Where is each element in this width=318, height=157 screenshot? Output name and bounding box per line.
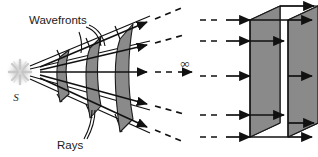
point-source-glow — [5, 57, 35, 87]
source-label: S — [13, 91, 19, 103]
rays-label: Rays — [57, 139, 83, 151]
infinity-label: ∞ — [180, 56, 189, 71]
wavefronts-rays-diagram: ∞ Wavefronts Rays S — [0, 0, 318, 157]
diagram-canvas: ∞ Wavefronts Rays S — [0, 0, 318, 157]
wavefronts-label: Wavefronts — [29, 14, 87, 26]
plane-wavefront-1 — [250, 6, 280, 137]
plane-wavefront-2 — [288, 6, 318, 137]
